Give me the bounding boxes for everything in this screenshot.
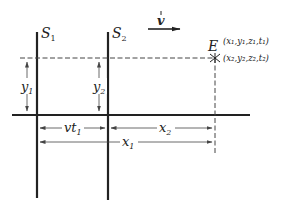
velocity-label: v: [157, 13, 165, 28]
frame-s1-label: S1: [41, 25, 56, 43]
frame-s2-label: S2: [112, 25, 127, 43]
event-coords-s2: (x₂,y₂,z₂,t₂): [223, 53, 269, 63]
event-label: E: [207, 38, 218, 54]
relativity-frames-diagram: y1 y2 vt1 x2 x1 S1 S2 v E (x₁,y₁,z₁,t₁) …: [0, 0, 286, 210]
event-coords-s1: (x₁,y₁,z₁,t₁): [223, 36, 269, 46]
